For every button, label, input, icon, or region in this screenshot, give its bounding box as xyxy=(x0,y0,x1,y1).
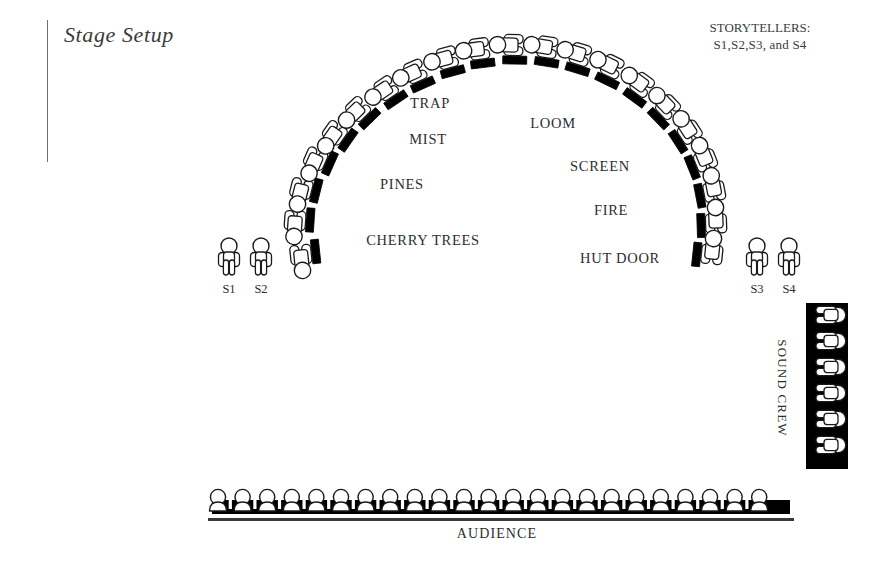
stage-label-loom: LOOM xyxy=(530,115,576,132)
bench-notch xyxy=(327,500,330,509)
audience-label: AUDIENCE xyxy=(457,526,537,542)
bench-notch xyxy=(499,500,502,509)
audience-member-23 xyxy=(751,489,768,511)
arc-performer-21 xyxy=(692,228,725,269)
bench-notch xyxy=(352,500,355,509)
stage-label-mist: MIST xyxy=(409,131,446,148)
bench-notch xyxy=(450,500,453,509)
standing-storyteller-4 xyxy=(779,238,800,275)
bench-notch xyxy=(672,500,675,509)
standing-storyteller-3 xyxy=(747,238,768,275)
audience-member-12 xyxy=(480,489,497,511)
audience-member-21 xyxy=(702,489,719,511)
audience-member-2 xyxy=(234,489,251,511)
audience-group xyxy=(208,489,794,521)
bench-notch xyxy=(721,500,724,509)
bench-notch xyxy=(229,500,232,509)
stage-label-cherry-trees: CHERRY TREES xyxy=(366,232,480,249)
audience-member-10 xyxy=(431,489,448,511)
standing-storyteller-2 xyxy=(251,238,272,275)
audience-member-19 xyxy=(652,489,669,511)
bench-notch xyxy=(524,500,527,509)
audience-member-15 xyxy=(554,489,571,511)
audience-member-16 xyxy=(579,489,596,511)
audience-member-22 xyxy=(726,489,743,511)
audience-member-20 xyxy=(677,489,694,511)
audience-member-18 xyxy=(628,489,645,511)
stage-label-fire: FIRE xyxy=(594,202,628,219)
audience-member-11 xyxy=(456,489,473,511)
audience-member-7 xyxy=(357,489,374,511)
storyteller-marker-s4: S4 xyxy=(782,282,795,297)
audience-floor-line xyxy=(208,518,794,521)
audience-member-3 xyxy=(259,489,276,511)
sound-crew-label: SOUND CREW xyxy=(774,339,790,437)
bench-notch xyxy=(303,500,306,509)
performer-arc-group xyxy=(283,33,727,280)
audience-member-13 xyxy=(505,489,522,511)
audience-member-5 xyxy=(308,489,325,511)
storyteller-marker-s3: S3 xyxy=(750,282,763,297)
bench-notch xyxy=(647,500,650,509)
audience-member-4 xyxy=(283,489,300,511)
audience-member-14 xyxy=(529,489,546,511)
bench-notch xyxy=(278,500,281,509)
audience-member-6 xyxy=(333,489,350,511)
storyteller-marker-s2: S2 xyxy=(254,282,267,297)
standing-storyteller-1 xyxy=(219,238,240,275)
bench-notch xyxy=(253,500,256,509)
audience-member-17 xyxy=(603,489,620,511)
stage-label-screen: SCREEN xyxy=(570,158,630,175)
audience-member-1 xyxy=(210,489,227,511)
bench-notch xyxy=(475,500,478,509)
stage-label-trap: TRAP xyxy=(410,95,450,112)
bench-notch xyxy=(573,500,576,509)
bench-notch xyxy=(401,500,404,509)
bench-notch xyxy=(549,500,552,509)
stage-setup-diagram: Stage Setup STORYTELLERS: S1,S2,S3, and … xyxy=(0,0,893,576)
bench-notch xyxy=(745,500,748,509)
bench-notch xyxy=(622,500,625,509)
bench-notch xyxy=(426,500,429,509)
bench-notch xyxy=(696,500,699,509)
bench-notch xyxy=(598,500,601,509)
stage-label-hut-door: HUT DOOR xyxy=(580,250,660,267)
stage-label-pines: PINES xyxy=(380,176,424,193)
sound-crew-group xyxy=(806,303,848,469)
audience-member-8 xyxy=(382,489,399,511)
audience-member-9 xyxy=(406,489,423,511)
bench-notch xyxy=(376,500,379,509)
storyteller-marker-s1: S1 xyxy=(222,282,235,297)
